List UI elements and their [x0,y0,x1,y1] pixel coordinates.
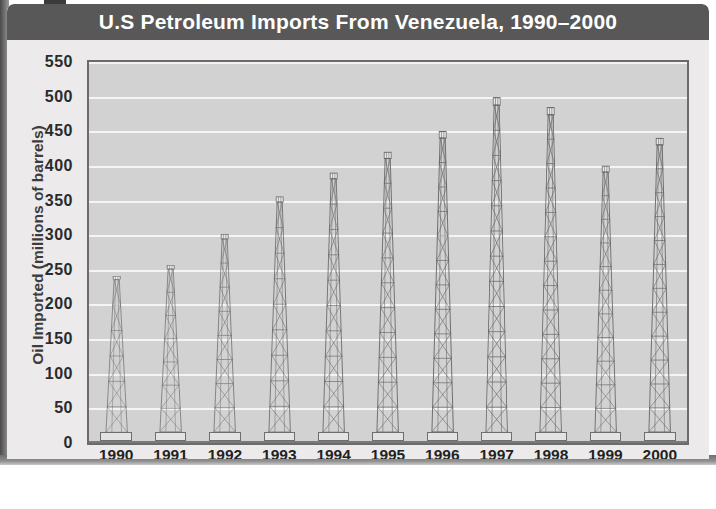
derrick-base-platform [209,432,241,441]
derrick-base-platform [372,432,404,441]
oil-derrick-icon [268,195,291,432]
bar-1993 [264,195,296,441]
bar-series [89,58,687,441]
bar-1996 [427,129,459,441]
derrick-base-platform [644,432,676,441]
x-axis-tick-label: 1999 [588,446,622,459]
y-axis-tick-labels: 550500450400350300250200150100500 [7,60,81,445]
oil-derrick-icon [159,264,182,432]
x-axis-tick-label: 1991 [153,446,187,459]
chart-page: U.S Petroleum Imports From Venezuela, 19… [0,0,716,509]
oil-derrick-icon [213,233,236,432]
y-axis-tick-label: 450 [45,122,73,140]
y-axis-tick-label: 150 [45,330,73,348]
bar-1992 [209,233,241,441]
derrick-base-platform [318,432,350,441]
chart-body: Oil Imported (millions of barrels) 55050… [7,40,709,459]
x-axis-tick-label: 1996 [425,446,459,459]
oil-derrick-icon [648,136,671,432]
x-axis-tick-label: 1990 [99,446,133,459]
page-title: U.S Petroleum Imports From Venezuela, 19… [99,10,617,34]
x-axis-tick-label: 2000 [643,446,677,459]
x-axis-tick-label: 1994 [316,446,350,459]
bar-1990 [100,275,132,441]
oil-derrick-icon [485,95,508,432]
derrick-base-platform [481,432,513,441]
y-axis-tick-label: 50 [54,399,73,417]
chart-title-bar: U.S Petroleum Imports From Venezuela, 19… [7,4,709,40]
x-axis-line [89,441,687,443]
derrick-base-platform [590,432,622,441]
x-axis-tick-label: 1993 [262,446,296,459]
y-axis-tick-label: 550 [45,53,73,71]
y-axis-tick-label: 0 [64,434,73,452]
oil-derrick-icon [105,275,128,432]
oil-derrick-icon [322,171,345,432]
x-axis-tick-labels: 1990199119921993199419951996199719981999… [87,446,689,459]
plot-area [87,60,689,445]
y-axis-tick-label: 350 [45,192,73,210]
y-axis-tick-label: 300 [45,226,73,244]
oil-derrick-icon [594,164,617,432]
bar-2000 [644,136,676,441]
derrick-base-platform [427,432,459,441]
oil-derrick-icon [376,150,399,432]
bar-1997 [481,95,513,441]
bar-1999 [590,164,622,441]
y-axis-tick-label: 100 [45,365,73,383]
oil-derrick-icon [539,105,562,432]
derrick-base-platform [155,432,187,441]
derrick-base-platform [100,432,132,441]
derrick-base-platform [264,432,296,441]
bar-1995 [372,150,404,441]
y-axis-tick-label: 500 [45,88,73,106]
x-axis-tick-label: 1998 [534,446,568,459]
y-axis-tick-label: 400 [45,157,73,175]
y-axis-tick-label: 250 [45,261,73,279]
bar-1994 [318,171,350,441]
x-axis-tick-label: 1997 [479,446,513,459]
bar-1991 [155,264,187,441]
derrick-base-platform [535,432,567,441]
x-axis-tick-label: 1992 [208,446,242,459]
y-axis-tick-label: 200 [45,295,73,313]
bar-1998 [535,105,567,441]
x-axis-tick-label: 1995 [371,446,405,459]
oil-derrick-icon [431,129,454,432]
chart-card: U.S Petroleum Imports From Venezuela, 19… [7,4,709,459]
